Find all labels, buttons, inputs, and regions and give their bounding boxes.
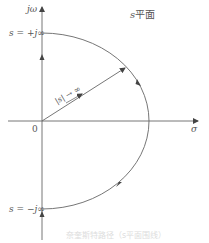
- imaginary-axis-label: jω: [27, 5, 37, 14]
- arc-arrow-lower-icon: [116, 182, 122, 187]
- plane-title: s平面: [130, 10, 155, 20]
- figure-caption: 奈奎斯特路径（s平面围线）: [66, 229, 166, 240]
- plane-title-suffix: 平面: [135, 9, 155, 20]
- top-point-label: s = +j∞: [9, 29, 45, 38]
- real-axis-label: σ: [191, 125, 197, 134]
- nyquist-contour-diagram: jω s平面 s = +j∞ |s| → ∞ 0 σ s = −j∞ 奈奎斯特路…: [0, 0, 209, 243]
- axis-up-arrow-icon: [40, 54, 45, 60]
- bottom-point-label: s = −j∞: [9, 205, 45, 214]
- origin-label: 0: [32, 125, 38, 134]
- radius-vector: [42, 68, 125, 121]
